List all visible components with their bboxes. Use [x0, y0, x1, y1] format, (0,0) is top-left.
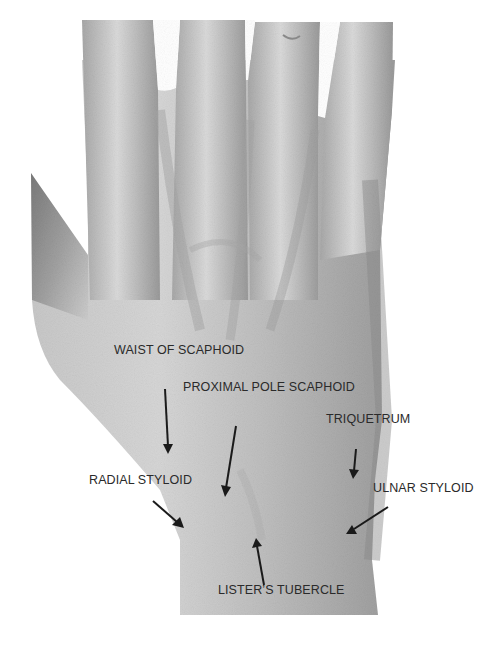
hand-photo	[0, 0, 500, 645]
label-triquetrum: TRIQUETRUM	[326, 412, 410, 426]
label-radial-styloid: RADIAL STYLOID	[89, 473, 192, 487]
label-proximal-pole-scaphoid: PROXIMAL POLE SCAPHOID	[183, 380, 355, 394]
label-ulnar-styloid: ULNAR STYLOID	[373, 481, 474, 495]
label-listers-tubercle: LISTER’S TUBERCLE	[218, 583, 345, 597]
label-waist-of-scaphoid: WAIST OF SCAPHOID	[114, 343, 244, 357]
hand-anatomy-figure: WAIST OF SCAPHOID PROXIMAL POLE SCAPHOID…	[0, 0, 500, 645]
finger-index	[82, 20, 160, 300]
